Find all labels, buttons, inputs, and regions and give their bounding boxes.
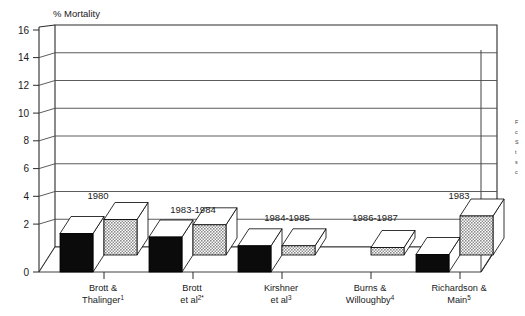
category-3-line1: Kirshner [264,283,298,293]
svg-text:Thalinger1: Thalinger1 [82,294,124,306]
year-label-2: 1983-1984 [170,204,215,215]
category-2-sup: 2* [198,294,205,301]
category-label-1: Brott & Thalinger1 [82,283,124,305]
year-label-4: 1986-1987 [352,212,397,223]
y-tick-10: 10 [18,108,30,119]
y-axis: 16 14 12 10 8 6 4 2 0 [18,25,39,278]
y-tick-4: 4 [23,191,29,202]
y-axis-title: % Mortality [53,8,100,19]
gridlines [55,53,497,220]
bar-2-black [149,220,193,272]
category-label-2: Brott et al2* [180,283,204,305]
category-5-sup: 5 [467,294,471,301]
category-label-5: Richardson & Main5 [431,283,486,305]
side-caption-line-3: S [515,139,519,145]
category-1-line1: Brott & [89,283,117,293]
side-caption-line-6: c [515,169,518,175]
mortality-bar-chart: 16 14 12 10 8 6 4 2 0 % Mortality [0,0,525,316]
side-caption-line-5: s [515,159,518,165]
svg-text:Willoughby4: Willoughby4 [346,294,395,306]
category-1-line2: Thalinger [82,295,120,305]
y-tick-2: 2 [23,219,29,230]
year-label-5: 1983 [448,190,469,201]
category-5-line1: Richardson & [431,283,486,293]
year-label-1: 1980 [87,190,108,201]
side-caption-line-2: c [515,129,518,135]
side-caption-line-4: t [515,149,517,155]
chart-canvas: 16 14 12 10 8 6 4 2 0 % Mortality [0,0,525,316]
bar-1-black [60,217,104,273]
category-label-3: Kirshner et al3 [264,283,298,305]
category-label-4: Burns & Willoughby4 [346,283,395,305]
year-label-3: 1984-1985 [264,212,309,223]
x-axis-ticks [104,272,460,279]
bar-5-hatched [460,199,504,255]
category-4-line1: Burns & [354,283,387,293]
category-5-line2: Main [447,295,467,305]
y-tick-6: 6 [23,163,29,174]
svg-text:et al3: et al3 [271,294,292,306]
category-1-sup: 1 [120,294,124,301]
y-tick-16: 16 [18,25,30,36]
gridline-depth-connectors [39,53,55,224]
category-2-line2: et al [180,295,197,305]
y-tick-12: 12 [18,80,30,91]
y-tick-14: 14 [18,52,30,63]
bar-3-black [238,229,282,272]
category-4-sup: 4 [391,294,395,301]
bar-1-hatched [104,203,148,256]
svg-text:et al2*: et al2* [180,294,204,306]
category-2-line1: Brott [182,283,202,293]
category-labels: Brott & Thalinger1 Brott et al2* Kirshne… [82,283,486,305]
y-tick-0: 0 [23,267,29,278]
side-caption-line-1: F [515,119,519,125]
side-caption-clipped: F c S t s c [515,119,519,175]
category-3-sup: 3 [288,294,292,301]
category-4-line2: Willoughby [346,295,391,305]
category-3-line2: et al [271,295,288,305]
svg-text:Main5: Main5 [447,294,471,306]
y-tick-8: 8 [23,135,29,146]
